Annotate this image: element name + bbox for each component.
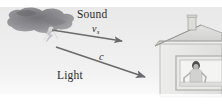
person-torso [190, 69, 202, 82]
figure-container: Sound vs c Light [0, 0, 222, 104]
top-margin [0, 0, 222, 7]
chimney-cap [187, 15, 197, 17]
light-speed-symbol: c [99, 52, 104, 63]
window-sill [180, 82, 222, 86]
sound-speed-subscript: s [96, 28, 99, 36]
scene-canvas [0, 0, 222, 104]
sound-speed-symbol: vs [92, 24, 99, 36]
light-label: Light [57, 70, 83, 82]
house-chimney [188, 16, 196, 30]
bottom-fade [0, 94, 222, 104]
sound-label: Sound [77, 9, 107, 21]
